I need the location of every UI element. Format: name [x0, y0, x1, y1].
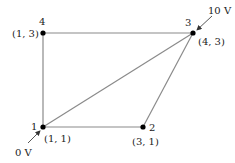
node-3-dot: [190, 30, 195, 35]
node-1-label: 1: [31, 121, 37, 132]
voltage-0v-label: 0 V: [15, 147, 33, 158]
node-1-dot: [40, 124, 45, 129]
voltage-arrow-10v: [197, 16, 212, 30]
edge-1-3: [43, 33, 193, 127]
node-3-label: 3: [185, 17, 191, 28]
node-1-coord: (1, 1): [44, 133, 71, 144]
node-2-coord: (3, 1): [132, 136, 159, 147]
edge-2-3: [143, 33, 193, 127]
voltage-10v-label: 10 V: [208, 5, 232, 16]
mesh-diagram: 4 (1, 3) 3 (4, 3) 10 V 1 (1, 1) 0 V 2 (3…: [0, 0, 235, 163]
node-3-coord: (4, 3): [198, 36, 225, 47]
node-2-label: 2: [149, 122, 155, 133]
node-4-dot: [40, 30, 45, 35]
voltage-arrow-0v: [28, 131, 40, 143]
node-4-coord: (1, 3): [12, 28, 39, 39]
node-4-label: 4: [39, 16, 45, 27]
node-2-dot: [140, 124, 145, 129]
